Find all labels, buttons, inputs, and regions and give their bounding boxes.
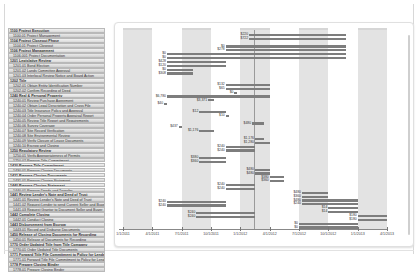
x-tick bbox=[123, 227, 124, 231]
gantt-bar[interactable] bbox=[226, 115, 229, 117]
gantt-bar[interactable] bbox=[302, 203, 358, 205]
bar-cost-label: $240 bbox=[158, 204, 166, 208]
window-border-left bbox=[4, 4, 5, 254]
gantt-bar[interactable] bbox=[358, 219, 387, 221]
x-tick-label: 10/1/2012 bbox=[320, 232, 336, 236]
x-tick-label: 1/1/2013 bbox=[351, 232, 365, 236]
vertical-scrollbar[interactable] bbox=[408, 35, 410, 235]
gantt-bar[interactable] bbox=[249, 34, 346, 36]
bar-cost-label: $10 bbox=[219, 114, 225, 118]
gantt-bar[interactable] bbox=[199, 157, 225, 159]
x-tick bbox=[387, 227, 388, 231]
x-tick-label: 7/1/2012 bbox=[292, 232, 306, 236]
gantt-bar[interactable] bbox=[167, 95, 270, 97]
gantt-bar[interactable] bbox=[167, 204, 226, 206]
gantt-bar[interactable] bbox=[167, 53, 346, 55]
gantt-bar[interactable] bbox=[167, 65, 226, 67]
gantt-bar[interactable] bbox=[302, 196, 328, 198]
bar-cost-label: $6,780 bbox=[156, 95, 166, 99]
x-tick-label: 7/1/2011 bbox=[175, 232, 189, 236]
gantt-bar[interactable] bbox=[199, 130, 214, 132]
bar-cost-label: $480 bbox=[244, 122, 252, 126]
gantt-bar[interactable] bbox=[270, 176, 285, 178]
x-tick bbox=[211, 227, 212, 231]
period-band-cap bbox=[240, 28, 269, 30]
gantt-bar[interactable] bbox=[252, 122, 264, 124]
gantt-bar[interactable] bbox=[226, 188, 255, 190]
bar-cost-label: $360 bbox=[191, 160, 199, 164]
x-axis bbox=[119, 229, 387, 230]
gantt-bar[interactable] bbox=[226, 146, 255, 148]
x-tick bbox=[152, 227, 153, 231]
gantt-bar[interactable] bbox=[299, 223, 358, 225]
bar-cost-label: $1,280 bbox=[244, 141, 254, 145]
x-tick-label: 4/1/2011 bbox=[145, 232, 159, 236]
gantt-bar[interactable] bbox=[196, 212, 255, 214]
gantt-bar[interactable] bbox=[249, 38, 346, 40]
gantt-bar[interactable] bbox=[255, 169, 270, 171]
bar-cost-label: $0 bbox=[230, 91, 234, 95]
x-tick bbox=[299, 227, 300, 231]
gantt-bar[interactable] bbox=[226, 184, 255, 186]
bar-cost-label: $65 bbox=[219, 87, 225, 91]
gantt-bar[interactable] bbox=[199, 161, 225, 163]
period-band-cap bbox=[299, 28, 328, 30]
period-band bbox=[240, 30, 269, 229]
task-row[interactable]: 1778.01 Prepare Closing Binder bbox=[8, 267, 105, 272]
gantt-bar[interactable] bbox=[358, 215, 387, 217]
x-tick-label: 1/1/2011 bbox=[116, 232, 130, 236]
gantt-bar[interactable] bbox=[234, 92, 237, 94]
bar-cost-label: $240 bbox=[217, 149, 225, 153]
bar-cost-label: $240 bbox=[188, 215, 196, 219]
gantt-bar[interactable] bbox=[226, 45, 346, 47]
gantt-bar[interactable] bbox=[328, 207, 357, 209]
gantt-bar[interactable] bbox=[255, 142, 270, 144]
gantt-bar[interactable] bbox=[302, 192, 328, 194]
gantt-bar[interactable] bbox=[226, 149, 255, 151]
gantt-chart-panel: $220$722$0$278$0$0$428$120$0$308$132$65$… bbox=[114, 22, 414, 247]
gantt-bar[interactable] bbox=[167, 69, 193, 71]
gantt-bar[interactable] bbox=[167, 61, 226, 63]
gantt-bar[interactable] bbox=[226, 84, 270, 86]
gantt-bar[interactable] bbox=[196, 216, 255, 218]
bar-cost-label: $12 bbox=[193, 110, 199, 114]
task-list: 1100 Project Execution1100.01 Project Ma… bbox=[8, 28, 105, 272]
x-tick bbox=[182, 227, 183, 231]
bar-cost-label: $180 bbox=[349, 218, 357, 222]
bar-cost-label: $480 bbox=[246, 172, 254, 176]
gantt-bar[interactable] bbox=[208, 99, 214, 101]
bar-cost-label: $360 bbox=[261, 179, 269, 183]
bar-cost-label: $437 bbox=[170, 125, 178, 129]
bar-cost-label: $240 bbox=[217, 187, 225, 191]
gantt-bar[interactable] bbox=[270, 180, 285, 182]
gantt-bar[interactable] bbox=[302, 199, 358, 201]
bar-cost-label: $3,371 bbox=[197, 99, 207, 103]
gantt-bar[interactable] bbox=[255, 138, 264, 140]
gantt-bar[interactable] bbox=[167, 201, 226, 203]
bar-cost-label: $1,176 bbox=[188, 129, 198, 133]
gantt-bar[interactable] bbox=[167, 72, 193, 74]
x-tick-label: 4/1/2013 bbox=[380, 232, 394, 236]
bar-cost-label: $40 bbox=[157, 102, 163, 106]
period-band bbox=[123, 30, 152, 229]
x-tick bbox=[358, 227, 359, 231]
period-band-cap bbox=[182, 28, 211, 30]
gantt-bar[interactable] bbox=[167, 57, 346, 59]
x-tick-label: 10/1/2011 bbox=[203, 232, 219, 236]
bar-cost-label: $722 bbox=[241, 37, 249, 41]
x-tick-label: 1/1/2012 bbox=[233, 232, 247, 236]
bar-cost-label: $308 bbox=[158, 72, 166, 76]
bar-cost-label: $14 bbox=[322, 210, 328, 214]
bar-cost-label: $240 bbox=[293, 202, 301, 206]
period-band bbox=[358, 30, 387, 229]
milestone-line bbox=[254, 30, 255, 229]
period-band-cap bbox=[123, 28, 152, 30]
gantt-bar[interactable] bbox=[164, 103, 167, 105]
period-band-cap bbox=[358, 28, 387, 30]
gantt-bar[interactable] bbox=[226, 49, 346, 51]
x-tick bbox=[328, 227, 329, 231]
x-tick bbox=[270, 227, 271, 231]
x-tick-label: 4/1/2012 bbox=[263, 232, 277, 236]
gantt-bar[interactable] bbox=[179, 126, 182, 128]
bar-cost-label: $278 bbox=[217, 48, 225, 52]
